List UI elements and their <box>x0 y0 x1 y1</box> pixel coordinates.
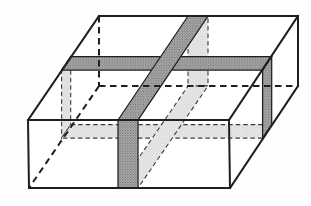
box-with-crossing-slabs-diagram <box>0 0 311 206</box>
figure-canvas <box>0 0 311 206</box>
slab-b-front-face-band <box>118 120 138 188</box>
edge-front-left <box>28 120 29 188</box>
edge-front-right <box>229 120 230 188</box>
